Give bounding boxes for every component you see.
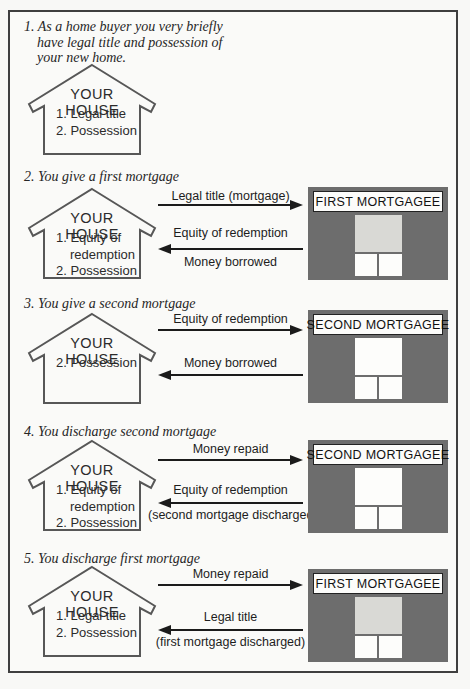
house-item: 2. Possession <box>56 263 140 280</box>
building-door <box>355 597 402 634</box>
building-door <box>355 468 402 505</box>
heading-line: 3. You give a second mortgage <box>24 296 195 312</box>
house-item: 1. Equity of redemption <box>56 482 140 515</box>
arrow-shaft <box>158 204 291 206</box>
section-1-heading: 1. As a home buyer you very briefly have… <box>24 19 223 66</box>
house-item: 1. Legal title <box>56 106 140 123</box>
building-name-plate: FIRST MORTGAGEE <box>313 573 443 594</box>
arrow-left-icon <box>158 243 303 255</box>
arrowhead-left-icon <box>158 498 171 508</box>
house-item: 1. Legal title <box>56 608 140 625</box>
arrowhead-right-icon <box>290 455 303 465</box>
arrow-sublabel: Money borrowed <box>158 255 303 269</box>
building-name-plate: FIRST MORTGAGEE <box>313 191 443 212</box>
house-item-list: 1. Equity of redemption 2. Possession <box>56 482 140 532</box>
arrowhead-right-icon <box>290 580 303 590</box>
heading-line: 2. You give a first mortgage <box>24 169 179 185</box>
building-name-plate: SECOND MORTGAGEE <box>313 314 443 335</box>
house-diagram-4: YOUR HOUSE 1. Equity of redemption 2. Po… <box>27 438 157 533</box>
house-item-list: 1. Legal title 2. Possession <box>56 608 140 641</box>
heading-line: 1. As a home buyer you very briefly <box>24 19 223 35</box>
arrow-right-icon <box>158 324 303 336</box>
arrowhead-right-icon <box>290 325 303 335</box>
arrow-shaft <box>170 248 303 250</box>
building-name-plate: SECOND MORTGAGEE <box>313 444 443 465</box>
arrow-sublabel: (second mortgage discharged) <box>148 508 313 522</box>
building-window-right <box>379 636 403 658</box>
house-item: 2. Possession <box>56 625 140 642</box>
building-door <box>355 338 402 375</box>
arrow-label: Legal title <box>158 610 303 624</box>
arrow-left-icon <box>158 369 303 381</box>
house-diagram-2: YOUR HOUSE 1. Equity of redemption 2. Po… <box>27 186 157 281</box>
arrowhead-left-icon <box>158 625 171 635</box>
house-diagram-1: YOUR HOUSE 1. Legal title 2. Possession <box>27 62 157 157</box>
building-window-left <box>355 254 377 276</box>
building-name: FIRST MORTGAGEE <box>316 577 441 591</box>
mortgagee-building-2nd-repay: SECOND MORTGAGEE <box>308 440 448 533</box>
arrow-shaft <box>158 329 291 331</box>
building-window-right <box>379 254 403 276</box>
arrowhead-left-icon <box>158 244 171 254</box>
arrowhead-left-icon <box>158 370 171 380</box>
clipped-page-title: FOR A LOAN <box>95 0 255 3</box>
arrow-label: Equity of redemption <box>158 483 303 497</box>
arrow-shaft <box>158 584 291 586</box>
house-item-list: 2. Possession <box>56 355 140 372</box>
mortgagee-building-1st: FIRST MORTGAGEE <box>308 187 448 280</box>
arrow-right-icon <box>158 199 303 211</box>
building-window-left <box>355 636 377 658</box>
house-item: 2. Possession <box>56 355 140 372</box>
house-diagram-3: YOUR HOUSE 2. Possession <box>27 311 157 406</box>
section-3-heading: 3. You give a second mortgage <box>24 296 195 312</box>
heading-line: have legal title and possession of <box>24 35 223 51</box>
arrow-sublabel: (first mortgage discharged) <box>148 635 313 649</box>
arrowhead-right-icon <box>290 200 303 210</box>
building-window-left <box>355 377 377 399</box>
diagram-frame: 1. As a home buyer you very briefly have… <box>8 10 458 673</box>
arrow-shaft <box>158 459 291 461</box>
arrow-shaft <box>170 502 303 504</box>
arrow-right-icon <box>158 579 303 591</box>
building-window-right <box>379 377 403 399</box>
building-name: SECOND MORTGAGEE <box>307 318 450 332</box>
building-name: SECOND MORTGAGEE <box>307 448 450 462</box>
mortgagee-building-2nd: SECOND MORTGAGEE <box>308 310 448 403</box>
house-item-list: 1. Equity of redemption 2. Possession <box>56 230 140 280</box>
house-diagram-5: YOUR HOUSE 1. Legal title 2. Possession <box>27 564 157 659</box>
building-door <box>355 215 402 252</box>
section-2-heading: 2. You give a first mortgage <box>24 169 179 185</box>
arrow-shaft <box>170 629 303 631</box>
building-window-right <box>379 507 403 529</box>
arrow-label: Equity of redemption <box>158 226 303 240</box>
house-item: 1. Equity of redemption <box>56 230 140 263</box>
house-item: 2. Possession <box>56 123 140 140</box>
building-window-left <box>355 507 377 529</box>
arrow-right-icon <box>158 454 303 466</box>
house-item: 2. Possession <box>56 515 140 532</box>
mortgagee-building-1st-repay: FIRST MORTGAGEE <box>308 569 448 662</box>
page: FOR A LOAN 1. As a home buyer you very b… <box>0 0 470 689</box>
arrow-label: Money borrowed <box>158 356 303 370</box>
building-name: FIRST MORTGAGEE <box>316 195 441 209</box>
arrow-shaft <box>170 374 303 376</box>
house-item-list: 1. Legal title 2. Possession <box>56 106 140 139</box>
